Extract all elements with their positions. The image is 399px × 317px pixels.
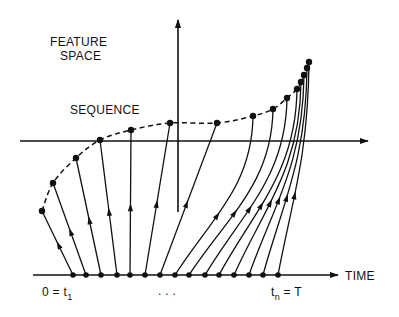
time-sample-dot — [83, 272, 89, 278]
sequence-point-dot — [250, 113, 256, 119]
trajectory-line — [130, 130, 131, 275]
time-sample-dot — [216, 272, 222, 278]
time-sample-dot — [275, 272, 281, 278]
arrowhead-icon — [275, 196, 283, 205]
svg-text:tn = T: tn = T — [271, 285, 302, 302]
time-sample-dot — [202, 272, 208, 278]
time-sample-dot — [157, 272, 163, 278]
time-axis-label: TIME — [345, 269, 375, 283]
time-sample-dot — [186, 272, 192, 278]
sequence-point-dot — [97, 137, 103, 143]
time-sample-dot — [246, 272, 252, 278]
sequence-label: SEQUENCE — [70, 103, 140, 117]
trajectory-line — [175, 116, 253, 275]
trajectory-line — [100, 140, 117, 275]
arrowhead-icon — [283, 193, 290, 202]
sequence-point-dot — [50, 180, 56, 186]
ellipsis: . . . — [158, 284, 176, 298]
trajectory-line — [278, 62, 309, 275]
sequence-point-dot — [304, 65, 310, 71]
time-sample-dot — [142, 272, 148, 278]
time-sample-dot — [127, 272, 133, 278]
trajectories — [42, 62, 309, 275]
trajectory-line — [145, 123, 170, 275]
sequence-point-dot — [301, 72, 307, 78]
sequence-point-dot — [39, 208, 45, 214]
arrowhead-icon — [86, 216, 93, 225]
sequence-point-dot — [128, 127, 134, 133]
time-sample-dot — [98, 272, 104, 278]
time-sample-dot — [260, 272, 266, 278]
time-sample-dot — [172, 272, 178, 278]
time-sample-dot — [70, 272, 76, 278]
arrowhead-icon — [54, 240, 62, 249]
sequence-point-dot — [294, 86, 300, 92]
svg-text:0 = t1: 0 = t1 — [42, 285, 73, 302]
time-sample-dot — [231, 272, 237, 278]
end-time-label: tn = T — [271, 285, 302, 302]
time-sample-dot — [114, 272, 120, 278]
arrowhead-icon — [128, 203, 133, 211]
arrowhead-icon — [266, 198, 274, 207]
sequence-point-dot — [167, 120, 173, 126]
sequence-point-dot — [306, 59, 312, 65]
sequence-point-dot — [214, 120, 220, 126]
diagram-canvas: FEATURE SPACE SEQUENCE TIME 0 = t1 tn = … — [0, 0, 399, 317]
trajectory-line — [160, 123, 217, 275]
arrowhead-icon — [245, 204, 254, 214]
start-time-label: 0 = t1 — [42, 285, 73, 302]
sequence-point-dot — [284, 95, 290, 101]
arrowhead-icon — [257, 201, 266, 211]
arrowhead-icon — [183, 199, 191, 208]
sequence-point-dot — [298, 79, 304, 85]
feature-space-label-line1: FEATURE — [50, 35, 107, 49]
feature-space-label-line2: SPACE — [60, 49, 101, 63]
sequence-point-dot — [73, 155, 79, 161]
sequence-point-dot — [270, 106, 276, 112]
arrowhead-icon — [67, 227, 75, 236]
